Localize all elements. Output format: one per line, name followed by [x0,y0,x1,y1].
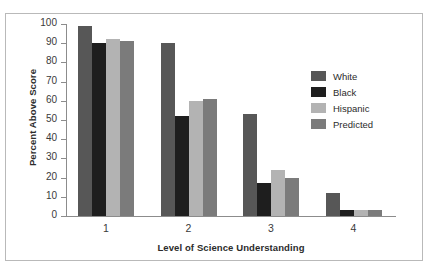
bar-predicted-level-3 [285,178,299,216]
y-axis-tick-label: 70 [46,75,57,86]
x-axis-tick-label: 4 [351,222,357,234]
y-axis-tick-label: 40 [46,132,57,143]
bar-white-level-1 [78,26,92,216]
y-axis-tick-label: 100 [40,17,57,28]
x-axis-line [66,216,396,217]
legend-swatch-predicted [311,119,326,129]
legend-swatch-black [311,87,326,97]
chart-figure: Percent Above Score 01020304050607080901… [0,0,431,272]
bar-black-level-1 [92,43,106,216]
legend-label: Hispanic [333,103,369,114]
y-axis-tick: 50 [61,120,66,121]
y-axis-tick-label: 60 [46,94,57,105]
legend-label: Predicted [333,119,373,130]
y-axis-line [66,24,67,216]
bar-hispanic-level-3 [271,170,285,216]
bar-white-level-3 [243,114,257,216]
y-axis-tick: 30 [61,158,66,159]
legend-label: White [333,71,357,82]
bar-white-level-4 [326,193,340,216]
legend-item-white: White [311,69,373,83]
bar-hispanic-level-4 [354,210,368,216]
x-axis-tick-label: 2 [186,222,192,234]
bar-hispanic-level-1 [106,39,120,216]
y-axis-tick: 70 [61,82,66,83]
bar-hispanic-level-2 [189,101,203,216]
y-axis-tick-label: 10 [46,190,57,201]
y-axis-tick: 60 [61,101,66,102]
y-axis-tick-label: 90 [46,36,57,47]
y-axis-tick: 20 [61,178,66,179]
x-axis-title: Level of Science Understanding [66,242,396,253]
y-axis-title: Percent Above Score [27,48,38,188]
y-axis-tick: 10 [61,197,66,198]
legend-item-predicted: Predicted [311,117,373,131]
y-axis-tick: 100 [61,24,66,25]
y-axis-tick: 0 [61,216,66,217]
y-axis-tick: 80 [61,62,66,63]
x-axis-tick-label: 3 [268,222,274,234]
chart-legend: WhiteBlackHispanicPredicted [311,69,373,133]
bar-black-level-2 [175,116,189,216]
y-axis-tick-label: 0 [51,209,57,220]
bar-predicted-level-2 [203,99,217,216]
bar-predicted-level-4 [368,210,382,216]
legend-label: Black [333,87,356,98]
y-axis-tick: 40 [61,139,66,140]
bar-black-level-3 [257,183,271,216]
bar-black-level-4 [340,210,354,216]
bar-predicted-level-1 [120,41,134,216]
y-axis-tick-label: 30 [46,151,57,162]
x-axis-tick-label: 1 [103,222,109,234]
legend-swatch-white [311,71,326,81]
y-axis-tick: 90 [61,43,66,44]
y-axis-tick-label: 50 [46,113,57,124]
bar-white-level-2 [161,43,175,216]
legend-item-black: Black [311,85,373,99]
y-axis-tick-label: 80 [46,55,57,66]
legend-item-hispanic: Hispanic [311,101,373,115]
y-axis-tick-label: 20 [46,171,57,182]
legend-swatch-hispanic [311,103,326,113]
chart-frame: Percent Above Score 01020304050607080901… [5,13,423,261]
